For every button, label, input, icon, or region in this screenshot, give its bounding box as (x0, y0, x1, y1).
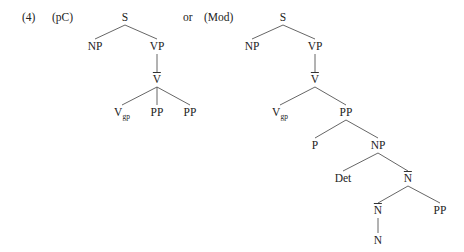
syntax-tree-diagram: (4) (pC) or (Mod) SNPVPVVgpPPPPSNPVPVVgp… (0, 0, 464, 252)
tree-node-pp2: PP (184, 106, 197, 118)
tree-node-nbar1: N (404, 172, 412, 184)
tree-edge (157, 87, 190, 105)
tree-node-np2: NP (371, 139, 386, 151)
tree-edge (283, 25, 315, 39)
tree-edge (408, 186, 440, 203)
tree-edge (378, 186, 408, 203)
tree-node-np: NP (88, 40, 103, 52)
tree-label-pc: (pC) (52, 11, 73, 23)
tree-node-pp1: PP (151, 106, 164, 118)
tree-edge (280, 87, 315, 105)
tree-node-det: Det (335, 172, 352, 184)
tree-label-mod: (Mod) (204, 11, 233, 23)
tree-node-vgp: Vgp (114, 106, 130, 118)
tree-node-nbar2: N (374, 204, 382, 216)
tree-node-vbar: V (153, 73, 161, 85)
tree-edge (343, 153, 378, 171)
tree-node-vbar: V (311, 73, 319, 85)
tree-edge (95, 25, 125, 39)
tree-node-pp3: PP (434, 204, 447, 216)
tree-edges (0, 0, 464, 252)
tree-edge (122, 87, 157, 105)
tree-node-pp: PP (340, 106, 353, 118)
tree-node-n: N (374, 234, 382, 246)
tree-edge (252, 25, 283, 39)
tree-node-s: S (122, 11, 128, 23)
tree-edge (315, 87, 346, 105)
tree-node-vp: VP (308, 40, 323, 52)
example-number: (4) (22, 11, 35, 23)
tree-node-np: NP (245, 40, 260, 52)
tree-edge (378, 153, 408, 171)
tree-node-vgp: Vgp (272, 106, 288, 118)
connector-or: or (183, 11, 193, 23)
tree-edge (125, 25, 157, 39)
tree-node-vp: VP (150, 40, 165, 52)
tree-edge (346, 120, 378, 138)
tree-node-s: S (280, 11, 286, 23)
tree-edge (315, 120, 346, 138)
tree-node-p: P (312, 139, 318, 151)
